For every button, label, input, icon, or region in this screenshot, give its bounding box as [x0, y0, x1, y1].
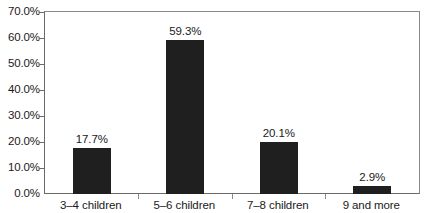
x-cat-label-3: 7–8 children — [247, 199, 308, 212]
y-tick-label-0: 0.0% — [0, 188, 40, 200]
bar-7-8-children — [260, 142, 298, 194]
bar-3-4-children — [73, 148, 111, 194]
x-cat-label-1: 3–4 children — [60, 199, 121, 212]
bar-value-label-1: 17.7% — [76, 134, 108, 146]
bar-9-and-more — [353, 186, 391, 194]
plot-area: 17.7% 59.3% 20.1% 2.9% — [45, 12, 419, 194]
y-tick-label-40: 40.0% — [0, 84, 40, 96]
y-tick-label-30: 30.0% — [0, 110, 40, 122]
y-tick-label-10: 10.0% — [0, 162, 40, 174]
bar-slot-1: 17.7% — [45, 12, 139, 194]
bar-chart: 70.0% 60.0% 50.0% 40.0% 30.0% 20.0% 10.0… — [0, 0, 426, 213]
bar-slot-2: 59.3% — [139, 12, 233, 194]
y-tick-label-50: 50.0% — [0, 58, 40, 70]
y-axis: 70.0% 60.0% 50.0% 40.0% 30.0% 20.0% 10.0… — [0, 0, 40, 213]
bar-value-label-4: 2.9% — [359, 172, 385, 184]
bar-slot-4: 2.9% — [326, 12, 420, 194]
x-cat-label-4: 9 and more — [343, 199, 400, 212]
bar-5-6-children — [166, 40, 204, 194]
bar-value-label-3: 20.1% — [263, 128, 295, 140]
x-axis: 3–4 children 5–6 children 7–8 children 9… — [44, 199, 420, 213]
y-tick-label-70: 70.0% — [0, 6, 40, 18]
bar-value-label-2: 59.3% — [169, 26, 201, 38]
y-tick-label-60: 60.0% — [0, 32, 40, 44]
x-cat-label-2: 5–6 children — [154, 199, 215, 212]
bar-slot-3: 20.1% — [232, 12, 326, 194]
y-tick-label-20: 20.0% — [0, 136, 40, 148]
